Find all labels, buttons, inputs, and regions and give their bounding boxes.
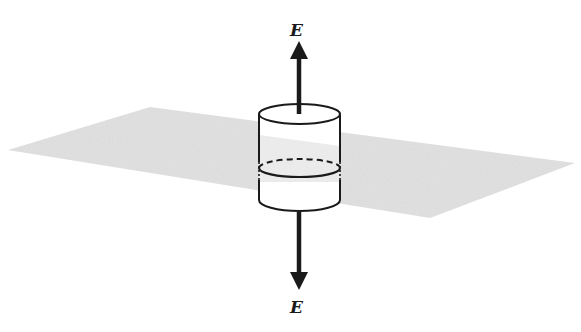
- field-label-top: E: [289, 20, 304, 40]
- gaussian-cylinder: [259, 104, 340, 211]
- field-label-bottom: E: [289, 297, 304, 317]
- gauss-pillbox-diagram: E E: [0, 0, 581, 332]
